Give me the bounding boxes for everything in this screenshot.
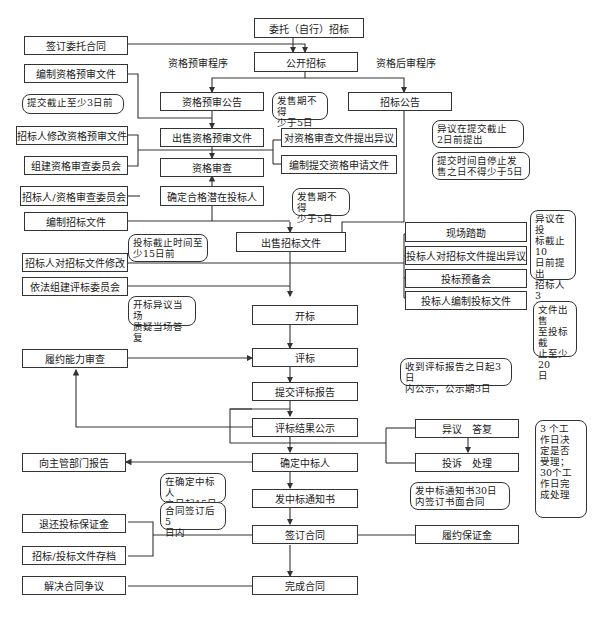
bidder-objection-box[interactable]: 投标人对招标文件提出异议: [405, 246, 527, 265]
note-refund-5days: 合同签订后5 日内: [160, 502, 226, 530]
determine-winner-box[interactable]: 确定中标人: [252, 453, 358, 472]
sign-contract-box[interactable]: 签订合同: [252, 525, 358, 544]
resolve-disputes-box[interactable]: 解决合同争议: [22, 576, 126, 595]
public-tender-box[interactable]: 公开招标: [254, 52, 358, 72]
line-refund-arch: [128, 522, 153, 556]
form-prequal-committee-box[interactable]: 组建资格审查委员会: [24, 156, 128, 175]
prepare-tender-docs-box[interactable]: 编制招标文件: [24, 212, 128, 231]
note-contract-30days: 发中标通知书30日 内签订书面合同: [410, 482, 510, 510]
note-sale-5days-a: 发售期不得 少于5日: [272, 92, 328, 120]
note-submit-time-5days: 提交时间自停止发 售之日不得少于5日: [432, 152, 530, 180]
note-report-15days: 在确定中标人 之日起15日内: [160, 473, 226, 503]
note-deadline-15days: 投标截止时间至 少15日前: [128, 234, 208, 262]
prepare-application-box[interactable]: 编制提交资格申请文件: [281, 155, 397, 174]
sign-entrust-contract-box[interactable]: 签订委托合同: [24, 36, 128, 55]
objection-reply-box[interactable]: 异议 答复: [415, 419, 519, 438]
sell-prequal-docs-box[interactable]: 出售资格预审文件: [160, 128, 264, 147]
issue-notice-box[interactable]: 发中标通知书: [252, 489, 358, 508]
note-opening-objection: 开标异议当场 质疑当场答复: [128, 296, 196, 326]
line-public-postqual: [305, 78, 404, 92]
prepare-prequal-docs-box[interactable]: 编制资格预审文件: [24, 64, 128, 83]
refund-deposit-box[interactable]: 退还投标保证金: [22, 514, 126, 533]
performance-bond-box[interactable]: 履约保证金: [415, 525, 519, 544]
note-objection-10days: 异议在投 标截止10 日前提出 招标人3 日内答复: [530, 210, 576, 280]
note-complaint-days: 3 个工 作日决 定是否 受理； 30个工 作日完 成处理: [535, 420, 587, 518]
line-signcontract-public: [128, 44, 305, 52]
sell-tender-docs-box[interactable]: 出售招标文件: [236, 232, 346, 252]
postqual-procedure-label: 资格后审程序: [376, 55, 436, 70]
prequal-review-box[interactable]: 资格审查: [160, 158, 264, 177]
modify-tender-docs-box[interactable]: 招标人对招标文件修改: [22, 253, 128, 272]
submit-report-box[interactable]: 提交评标报告: [252, 382, 358, 401]
note-submit-3days: 提交截止至少3日前: [22, 94, 124, 114]
note-sale-5days-b: 发售期不得 少于5日: [292, 188, 350, 216]
report-authority-box[interactable]: 向主管部门报告: [22, 453, 126, 472]
form-eval-committee-box[interactable]: 依法组建评标委员会: [22, 277, 128, 296]
confirm-bidders-box[interactable]: 确定合格潜在投标人: [160, 186, 264, 206]
entrust-tender-box[interactable]: 委托（自行）招标: [254, 18, 364, 38]
modify-prequal-docs-box[interactable]: 招标人修改资格预审文件: [16, 126, 128, 145]
note-docs-20days: 文件出售 至投标截 止至少20 日: [533, 301, 577, 357]
note-publicity-3days: 收到评标报告之日起3日 内公示，公示期3日: [400, 358, 512, 386]
line-public-split: [212, 72, 305, 92]
pre-bid-meeting-box[interactable]: 投标预备会: [405, 269, 527, 288]
object-prequal-docs-box[interactable]: 对资格审查文件提出异议: [281, 128, 397, 147]
performance-review-box[interactable]: 履约能力审查: [22, 349, 128, 368]
tenderer-committee-box[interactable]: 招标人/资格审查委员会: [20, 186, 128, 206]
tender-notice-box[interactable]: 招标公告: [348, 92, 452, 111]
prequal-procedure-label: 资格预审程序: [168, 55, 228, 70]
note-objection-2days: 异议在提交截止 2日前提出: [432, 120, 524, 148]
prepare-bid-docs-box[interactable]: 投标人编制投标文件: [405, 291, 527, 310]
bid-opening-box[interactable]: 开标: [252, 305, 358, 325]
line-modify-bus: [128, 135, 138, 166]
prequal-notice-box[interactable]: 资格预审公告: [160, 92, 264, 111]
complaint-handling-box[interactable]: 投诉 处理: [415, 453, 519, 472]
publicize-result-box[interactable]: 评标结果公示: [252, 418, 358, 437]
line-pub-perf: [76, 370, 252, 427]
complete-contract-box[interactable]: 完成合同: [252, 576, 358, 595]
site-visit-box[interactable]: 现场踏勘: [405, 222, 527, 242]
evaluation-box[interactable]: 评标: [252, 348, 358, 367]
archive-docs-box[interactable]: 招标/投标文件存档: [22, 546, 126, 565]
